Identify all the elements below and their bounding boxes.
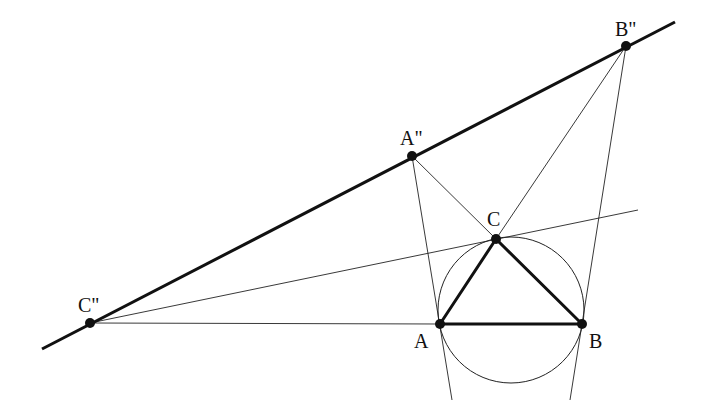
point-b [577, 319, 587, 329]
lemoine-axis [42, 22, 675, 349]
tangent-at-a [412, 156, 452, 400]
point-c [491, 234, 501, 244]
tangent-at-c [90, 210, 638, 323]
line-b2-c [496, 46, 626, 239]
label-b2: B" [615, 18, 637, 40]
point-a2 [407, 151, 417, 161]
label-c: C [487, 208, 500, 230]
line-a2-c [412, 156, 496, 239]
line-c2-a [90, 323, 440, 324]
geometry-diagram: A B C A" B" C" [0, 0, 706, 417]
point-b2 [621, 41, 631, 51]
construction-lines [90, 46, 638, 400]
triangle-abc [440, 239, 582, 324]
label-c2: C" [78, 294, 100, 316]
circumcircle [438, 237, 584, 383]
label-a2: A" [400, 127, 423, 149]
point-c2 [85, 318, 95, 328]
point-a [435, 319, 445, 329]
label-a: A [414, 330, 429, 352]
label-b: B [589, 330, 602, 352]
